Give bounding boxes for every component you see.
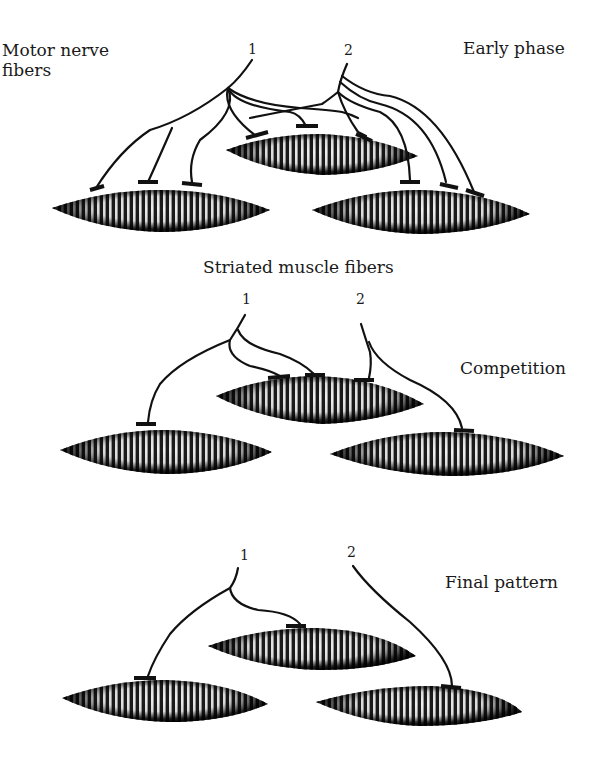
muscle-fiber-right: [316, 686, 522, 726]
muscle-fiber-middle: [216, 376, 424, 424]
muscle-fiber-left: [60, 430, 272, 474]
muscle-fiber-middle: [226, 134, 418, 175]
muscle-fiber-right: [330, 432, 564, 476]
neuron-2-axon-early: [250, 64, 484, 196]
synapse-terminal: [90, 186, 104, 190]
muscle-fiber-left: [62, 680, 268, 722]
synapse-elimination-diagram: [0, 0, 607, 775]
muscle-fiber-middle: [208, 628, 416, 670]
panel-final-pattern: [62, 566, 522, 726]
panel-competition: [60, 315, 564, 476]
muscle-fiber-right: [312, 190, 530, 234]
neuron-2-axon-final: [353, 566, 461, 688]
panel-early-phase: [52, 60, 530, 234]
muscle-fiber-left: [52, 190, 270, 232]
